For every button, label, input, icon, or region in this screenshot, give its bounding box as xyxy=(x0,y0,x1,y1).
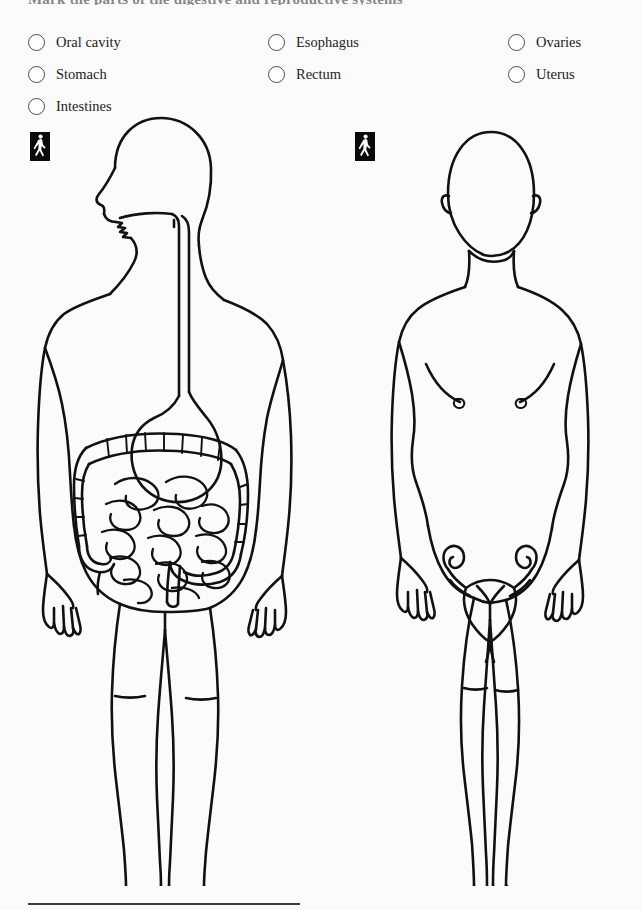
radio-icon[interactable] xyxy=(268,66,285,83)
radio-icon[interactable] xyxy=(268,34,285,51)
option-stomach[interactable]: Stomach xyxy=(28,58,258,90)
option-label: Ovaries xyxy=(536,35,581,50)
option-ovaries[interactable]: Ovaries xyxy=(508,26,642,58)
radio-icon[interactable] xyxy=(508,34,525,51)
option-label: Esophagus xyxy=(296,35,359,50)
option-esophagus[interactable]: Esophagus xyxy=(268,26,498,58)
option-label: Rectum xyxy=(296,67,341,82)
legend-column-reproductive: Ovaries Uterus xyxy=(508,26,642,90)
option-rectum[interactable]: Rectum xyxy=(268,58,498,90)
radio-icon[interactable] xyxy=(508,66,525,83)
footer-divider xyxy=(28,903,300,905)
option-label: Oral cavity xyxy=(56,35,121,50)
radio-icon[interactable] xyxy=(28,66,45,83)
page-title: Mark the parts of the digestive and repr… xyxy=(28,0,588,5)
option-oral-cavity[interactable]: Oral cavity xyxy=(28,26,258,58)
option-label: Uterus xyxy=(536,67,575,82)
radio-icon[interactable] xyxy=(28,34,45,51)
legend-column-digestive-lower: Esophagus Rectum xyxy=(268,26,498,90)
male-body-diagram xyxy=(14,96,334,886)
option-label: Stomach xyxy=(56,67,107,82)
female-body-diagram xyxy=(338,96,638,886)
option-uterus[interactable]: Uterus xyxy=(508,58,642,90)
